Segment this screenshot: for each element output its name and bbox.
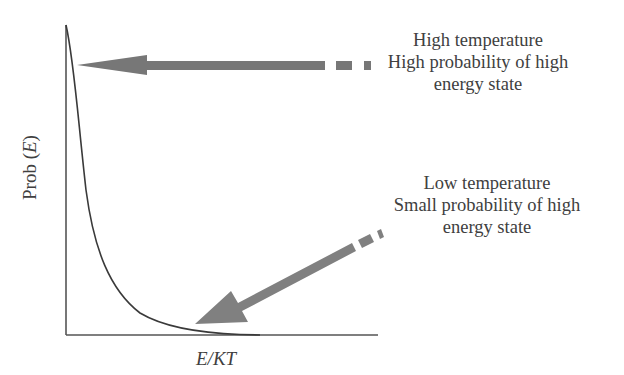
annotation-line: Small probability of high bbox=[377, 194, 597, 216]
high-temperature-arrow bbox=[77, 55, 371, 75]
arrow-head-shaft bbox=[77, 55, 325, 75]
y-axis-label: Prob (E) bbox=[19, 135, 41, 200]
low-temperature-arrow bbox=[195, 229, 384, 324]
arrow-dash bbox=[336, 61, 352, 70]
arrow-head-shaft bbox=[195, 243, 356, 324]
high-temperature-annotation: High temperature High probability of hig… bbox=[368, 29, 588, 95]
arrow-dash bbox=[358, 234, 374, 248]
axes bbox=[66, 25, 378, 335]
annotation-line: High temperature bbox=[368, 29, 588, 51]
y-axis-label-variable: E bbox=[19, 141, 40, 153]
low-temperature-annotation: Low temperature Small probability of hig… bbox=[377, 172, 597, 238]
y-axis-label-close: ) bbox=[19, 135, 40, 141]
y-axis-label-text: Prob ( bbox=[19, 153, 40, 200]
x-axis-label: E/KT bbox=[196, 348, 236, 370]
probability-curve bbox=[66, 25, 260, 335]
annotation-line: energy state bbox=[377, 216, 597, 238]
annotation-line: energy state bbox=[368, 73, 588, 95]
annotation-line: High probability of high bbox=[368, 51, 588, 73]
annotation-line: Low temperature bbox=[377, 172, 597, 194]
